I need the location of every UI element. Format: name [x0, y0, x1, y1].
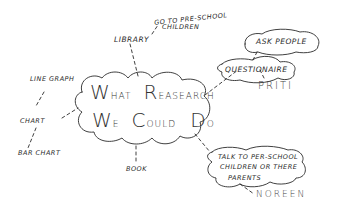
connector-lines [0, 0, 343, 210]
node-line-graph: LINE GRAPH [30, 76, 74, 83]
node-bar-chart: BAR CHART [18, 150, 60, 157]
node-talk-line2: CHILDREN OR THERE [220, 164, 297, 171]
central-node-line2: WE COULD DO [92, 108, 215, 132]
central-text: OULD [147, 119, 177, 129]
central-letter: C [132, 108, 147, 132]
connector-library [130, 44, 138, 76]
central-text: E [113, 119, 120, 129]
mind-map-canvas: WHAT REASEARCH WE COULD DO LIBRARY GO TO… [0, 0, 343, 210]
node-questionaire: QUESTIONAIRE [225, 66, 288, 74]
node-library: LIBRARY [114, 36, 149, 44]
node-book: BOOK [126, 166, 147, 173]
connector-line-graph [36, 92, 44, 106]
node-talk-line1: TALK TO PER-SCHOOL [218, 154, 298, 161]
central-letter: W [90, 80, 111, 104]
node-priti: PRITI [258, 80, 293, 91]
node-noreen: NOREEN [256, 189, 306, 199]
central-letter: D [190, 108, 206, 132]
central-text: EASEARCH [159, 91, 215, 101]
node-go-preschool-line2: CHILDREN [162, 24, 199, 31]
node-ask-people: ASK PEOPLE [256, 38, 307, 46]
central-text: O [207, 119, 215, 129]
connector-bar-chart [28, 128, 36, 148]
node-chart: CHART [20, 118, 45, 125]
central-letter: R [144, 80, 159, 104]
central-letter: W [92, 108, 113, 132]
connector-talk [195, 134, 210, 152]
node-talk-line3: PARENTS [228, 175, 261, 182]
connector-chart [62, 108, 78, 118]
central-text: HAT [111, 91, 132, 101]
central-node-line1: WHAT REASEARCH [90, 80, 215, 104]
